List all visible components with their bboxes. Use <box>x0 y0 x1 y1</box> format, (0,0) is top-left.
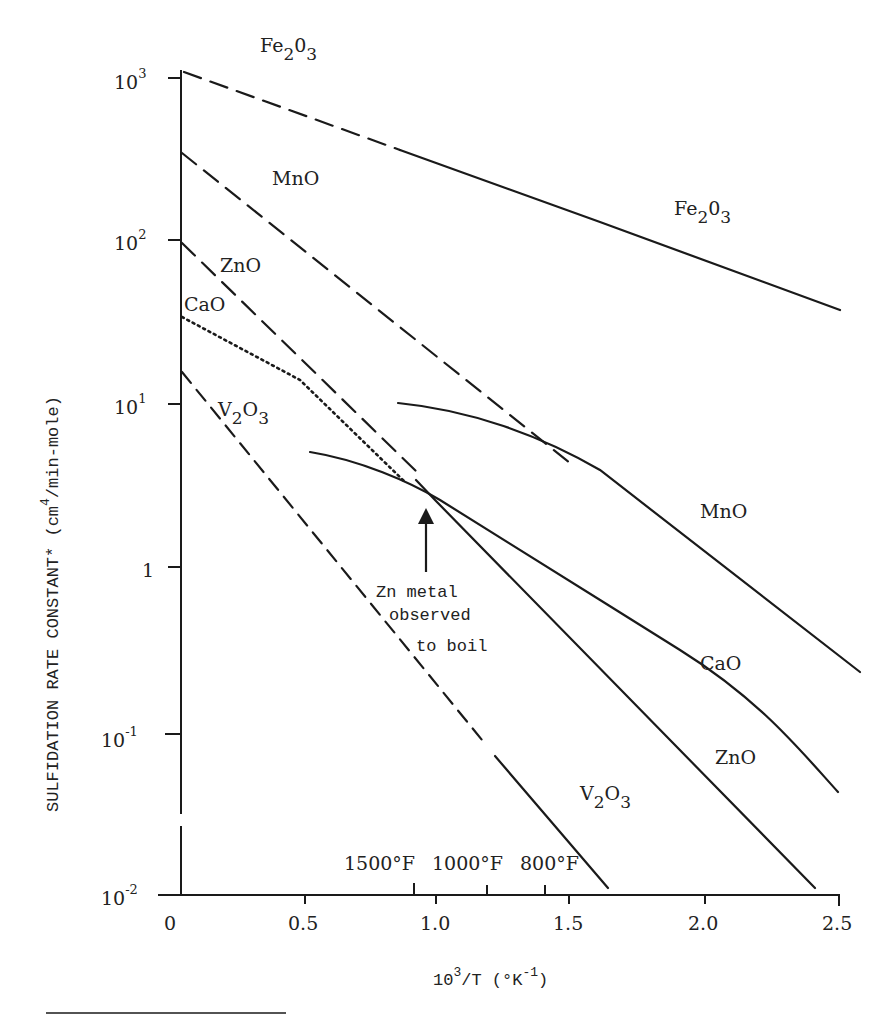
temperature-labels: 1500°F 1000°F 800°F <box>344 852 579 874</box>
x-tick-label: 2.5 <box>822 912 852 934</box>
series-zno <box>182 243 815 888</box>
axes <box>158 70 840 906</box>
y-tick-label-1e-1: 10-1 <box>101 724 138 751</box>
label-mno-left: MnO <box>272 167 319 189</box>
x-tick-label: 0 <box>164 912 176 934</box>
y-axis-title: SULFIDATION RATE CONSTANT* (cm4/min-mole… <box>38 396 63 812</box>
cao-extrapolated-line <box>182 317 405 482</box>
temp-label-1500F: 1500°F <box>344 852 415 874</box>
label-fe2o3-right: Fe203 <box>674 197 731 227</box>
label-zno-left: ZnO <box>220 254 261 276</box>
temp-label-1000F: 1000°F <box>432 852 503 874</box>
annotation-line-2: observed <box>389 606 471 625</box>
series-labels: Fe203 Fe203 MnO MnO ZnO ZnO CaO CaO V2O3… <box>184 34 756 812</box>
series-mno <box>182 153 860 672</box>
arrow-up-icon <box>418 508 434 524</box>
mno-measured-line <box>398 403 860 672</box>
x-tick-label: 2.0 <box>688 912 718 934</box>
zn-boil-annotation: Zn metal observed to boil <box>376 508 487 656</box>
y-tick-label-1e2: 102 <box>114 227 146 254</box>
label-v2o3-right: V2O3 <box>579 782 631 812</box>
series-fe2o3 <box>184 72 840 310</box>
x-tick-label: 1.5 <box>553 912 583 934</box>
x-tick-labels: 0 0.5 1.0 1.5 2.0 2.5 <box>164 912 852 934</box>
series-cao <box>182 317 838 792</box>
v2o3-extrapolated-line <box>182 372 482 740</box>
label-zno-right: ZnO <box>715 746 756 768</box>
annotation-line-3: to boil <box>416 637 487 656</box>
label-cao-right: CaO <box>700 652 741 674</box>
zno-extrapolated-line <box>182 243 420 475</box>
label-fe2o3-top: Fe203 <box>260 34 317 64</box>
annotation-line-1: Zn metal <box>376 583 458 602</box>
zno-measured-line <box>416 480 815 888</box>
y-tick-labels: 103 102 101 1 10-1 10-2 <box>101 66 154 909</box>
y-tick-label-1e-2: 10-2 <box>101 882 138 909</box>
fe2o3-extrapolated-line <box>184 72 400 150</box>
y-tick-label-1e1: 101 <box>114 391 146 418</box>
label-v2o3-left: V2O3 <box>217 398 269 428</box>
sulfidation-chart: 103 102 101 1 10-1 10-2 0 0.5 1.0 1.5 2.… <box>0 0 892 1027</box>
x-tick-label: 1.0 <box>420 912 450 934</box>
y-tick-label-1: 1 <box>142 559 154 581</box>
label-mno-right: MnO <box>700 500 747 522</box>
x-axis-title: 103/T (°K-1) <box>433 965 548 990</box>
temp-label-800F: 800°F <box>520 852 579 874</box>
y-tick-label-1e3: 103 <box>114 66 146 93</box>
label-cao-left: CaO <box>184 293 225 315</box>
fe2o3-measured-line <box>400 150 840 310</box>
x-tick-label: 0.5 <box>288 912 318 934</box>
